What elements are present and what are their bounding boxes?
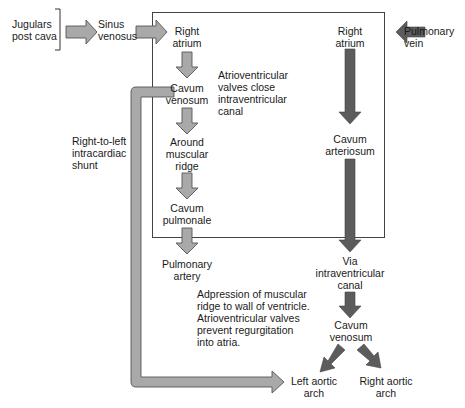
- label-sinus-venosus: Sinus venosus: [98, 18, 137, 42]
- arrow-to-left-aortic-arch: [320, 344, 345, 372]
- label-cavum-arteriosum: Cavum arteriosum: [325, 133, 375, 157]
- annotation-adpression: Adpression of muscular ridge to wall of …: [197, 288, 310, 348]
- label-line: Pulmonary: [404, 25, 454, 37]
- label-line: Jugulars: [12, 18, 57, 30]
- arrow-cavum-arteriosum-to-canal: [339, 159, 361, 252]
- label-line: vein: [404, 37, 454, 49]
- label-cavum-venosum-right: Cavum venosum: [330, 319, 373, 343]
- arrow-ridge-to-cavum-pulmonale: [176, 173, 198, 199]
- label-line: intracardiac: [72, 147, 126, 159]
- label-line: intraventricular: [316, 267, 385, 279]
- arrow-to-pulmonary-artery: [176, 228, 198, 254]
- label-line: Cavum: [330, 319, 373, 331]
- label-line: post cava: [12, 30, 57, 42]
- label-line: Right-to-left: [72, 135, 126, 147]
- label-line: Cavum: [166, 82, 209, 94]
- label-line: prevent regurgitation: [197, 324, 310, 336]
- label-line: Pulmonary: [162, 258, 212, 270]
- label-line: artery: [162, 270, 212, 282]
- arrow-canal-to-cavum-venosum: [339, 292, 361, 318]
- label-line: venosum: [166, 94, 209, 106]
- label-line: Around: [166, 136, 209, 148]
- label-jugulars: Jugulars post cava: [12, 18, 57, 42]
- arrow-atrium-to-cavum-arteriosum: [339, 49, 361, 124]
- arrow-to-right-aortic-arch: [357, 344, 381, 368]
- label-around-muscular-ridge: Around muscular ridge: [166, 136, 209, 172]
- label-line: Left aortic: [291, 375, 337, 387]
- label-line: Right aortic: [359, 375, 412, 387]
- arrow-cavum-venosum-to-ridge: [176, 108, 198, 134]
- label-line: Atrioventricular valves: [197, 312, 310, 324]
- label-via-intraventricular-canal: Via intraventricular canal: [316, 255, 385, 291]
- label-line: shunt: [72, 159, 126, 171]
- label-line: Via: [316, 255, 385, 267]
- label-right-aortic-arch: Right aortic arch: [359, 375, 412, 399]
- label-line: venosum: [330, 331, 373, 343]
- label-line: Sinus: [98, 18, 137, 30]
- label-line: venosus: [98, 30, 137, 42]
- label-line: valves close: [218, 81, 288, 93]
- label-line: atrium: [172, 37, 201, 49]
- annotation-av-valves: Atrioventricular valves close intraventr…: [218, 69, 288, 117]
- annotation-shunt: Right-to-left intracardiac shunt: [72, 135, 126, 171]
- label-right-atrium-right: Right atrium: [335, 25, 364, 49]
- label-line: Right: [172, 25, 201, 37]
- label-cavum-pulmonale: Cavum pulmonale: [163, 202, 211, 226]
- label-line: atrium: [335, 37, 364, 49]
- label-line: ridge to wall of ventricle.: [197, 300, 310, 312]
- label-right-atrium-left: Right atrium: [172, 25, 201, 49]
- label-line: Right: [335, 25, 364, 37]
- arrow-jugulars-to-sinus: [66, 20, 97, 44]
- label-line: into atria.: [197, 336, 310, 348]
- label-line: Adpression of muscular: [197, 288, 310, 300]
- arrow-atrium-to-cavum-venosum: [176, 52, 198, 78]
- label-line: muscular: [166, 148, 209, 160]
- label-line: canal: [316, 279, 385, 291]
- label-line: Cavum: [163, 202, 211, 214]
- arrow-sinus-to-right-atrium: [136, 20, 167, 44]
- label-line: canal: [218, 105, 288, 117]
- label-pulmonary-vein: Pulmonary vein: [404, 25, 454, 49]
- label-line: arteriosum: [325, 145, 375, 157]
- label-line: pulmonale: [163, 214, 211, 226]
- label-line: Cavum: [325, 133, 375, 145]
- label-line: ridge: [166, 160, 209, 172]
- label-line: intraventricular: [218, 93, 288, 105]
- label-cavum-venosum-left: Cavum venosum: [166, 82, 209, 106]
- label-line: Atrioventricular: [218, 69, 288, 81]
- label-line: arch: [359, 387, 412, 399]
- label-pulmonary-artery: Pulmonary artery: [162, 258, 212, 282]
- label-line: arch: [291, 387, 337, 399]
- label-left-aortic-arch: Left aortic arch: [291, 375, 337, 399]
